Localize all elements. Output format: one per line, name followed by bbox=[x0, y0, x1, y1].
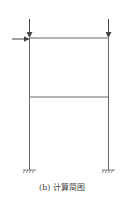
fixed-support-right-icon bbox=[102, 170, 115, 173]
fixed-support-left-icon bbox=[23, 170, 36, 173]
frame-diagram bbox=[0, 0, 124, 204]
figure-caption: (b) 计算简图 bbox=[0, 181, 124, 192]
